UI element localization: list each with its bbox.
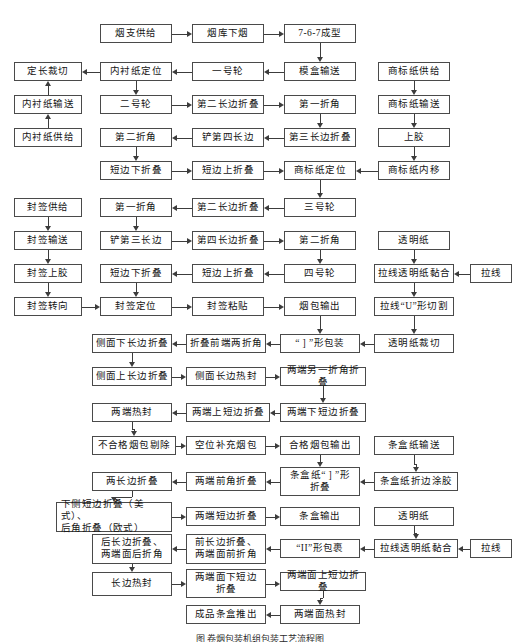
arrow-head: [275, 374, 280, 380]
arrow-head: [45, 259, 51, 264]
connector-line: [177, 482, 186, 483]
arrow-head: [172, 546, 177, 552]
arrow-head: [133, 292, 139, 297]
process-box: 四号轮: [284, 264, 356, 283]
connector-line: [459, 274, 470, 275]
process-box: 两端下短边折叠: [280, 403, 366, 422]
arrow-head: [317, 57, 323, 62]
process-box: 封签上胶: [14, 264, 82, 283]
connector-line: [264, 241, 279, 242]
process-box: 拉线: [470, 539, 512, 558]
connector-line: [172, 584, 181, 585]
connector-line: [266, 377, 275, 378]
connector-line: [269, 72, 284, 73]
process-box: “ ] ”形包装: [280, 334, 360, 353]
connector-line: [414, 147, 415, 156]
process-box: 前长边折叠、 两端面前折角: [186, 534, 266, 564]
process-box: 第二长边折叠: [192, 95, 264, 114]
connector-line: [177, 413, 186, 414]
connector-line: [320, 43, 321, 57]
arrow-head: [187, 304, 192, 310]
process-box: 短边上折叠: [192, 264, 264, 283]
process-box: 两端面上短边折叠: [280, 572, 366, 591]
connector-line: [172, 241, 187, 242]
connector-line: [172, 34, 187, 35]
arrow-head: [266, 612, 271, 618]
arrow-head: [187, 31, 192, 37]
connector-line: [48, 217, 49, 226]
arrow-head: [317, 600, 323, 605]
process-box: 两端前角折叠: [186, 472, 266, 491]
arrow-head: [187, 168, 192, 174]
arrow-head: [172, 205, 177, 211]
arrow-head: [45, 81, 51, 86]
process-box: 铲第四长边: [192, 128, 264, 147]
process-box: 铲第三长边: [100, 231, 172, 250]
process-box: 成品条盒推出: [186, 605, 266, 624]
connector-line: [320, 180, 321, 193]
connector-line: [136, 283, 137, 292]
connector-line: [264, 34, 279, 35]
arrow-head: [129, 567, 135, 572]
arrow-head: [413, 467, 419, 472]
connector-line: [271, 615, 280, 616]
connector-line: [172, 171, 187, 172]
connector-line: [323, 591, 324, 598]
arrow-head: [129, 362, 135, 367]
process-box: 第二长边折叠: [192, 198, 264, 217]
process-box: 透明纸: [374, 507, 454, 526]
arrow-head: [411, 123, 417, 128]
arrow-head: [413, 534, 419, 539]
arrow-head: [411, 259, 417, 264]
process-box: 模盒输送: [284, 62, 356, 81]
process-box: 封签粘贴: [192, 297, 264, 316]
process-box: 二号轮: [100, 95, 172, 114]
process-box: 短边下折叠: [100, 161, 172, 180]
connector-line: [320, 455, 321, 462]
arrow-head: [187, 102, 192, 108]
figure-caption: 图 卷烟包装机组包装工艺流程图: [0, 632, 520, 642]
connector-line: [177, 138, 192, 139]
connector-line: [323, 386, 324, 398]
arrow-head: [317, 462, 323, 467]
arrow-head: [270, 410, 275, 416]
arrow-head: [411, 90, 417, 95]
arrow-head: [320, 398, 326, 403]
connector-line: [365, 344, 374, 345]
flowchart-canvas: 烟支供给烟库下烟7-6-7成型定长裁切内衬纸定位一号轮模盒输送商标纸供给内衬纸输…: [0, 0, 520, 642]
process-box: 下侧短边折叠（美式）、 后角折叠（欧式）: [56, 502, 172, 532]
arrow-head: [172, 341, 177, 347]
connector-line: [271, 482, 280, 483]
process-box: 内衬纸定位: [100, 62, 172, 81]
arrow-head: [45, 292, 51, 297]
arrow-head: [45, 114, 51, 119]
arrow-head: [317, 193, 323, 198]
process-box: 内衬纸输送: [14, 95, 82, 114]
arrow-head: [356, 168, 361, 174]
connector-line: [269, 138, 284, 139]
process-box: 烟包输出: [284, 297, 356, 316]
process-box: 侧面长边热封: [186, 367, 266, 386]
process-box: 商标纸定位: [284, 161, 356, 180]
arrow-head: [266, 546, 271, 552]
connector-line: [266, 517, 275, 518]
process-box: 短边下折叠: [100, 264, 172, 283]
arrow-head: [264, 69, 269, 75]
arrow-head: [264, 271, 269, 277]
process-box: 拉线透明纸黏合: [374, 539, 458, 558]
connector-line: [365, 482, 374, 483]
connector-line: [177, 274, 192, 275]
process-box: 侧面上长边折叠: [92, 367, 172, 386]
connector-line: [320, 316, 321, 329]
process-box: 两端另一折角折叠: [280, 367, 366, 386]
connector-line: [266, 446, 275, 447]
process-box: 拉线: [470, 264, 512, 283]
arrow-head: [275, 443, 280, 449]
connector-line: [172, 307, 187, 308]
arrow-head: [133, 156, 139, 161]
connector-line: [82, 307, 95, 308]
arrow-head: [82, 69, 87, 75]
process-box: 折叠前端两折角: [186, 334, 266, 353]
connector-line: [266, 584, 275, 585]
connector-line: [320, 114, 321, 123]
